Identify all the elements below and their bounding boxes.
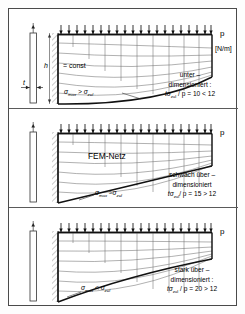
note-rest-under: / p = 10 < 12 bbox=[178, 90, 215, 97]
panel-under-dimensioned: p [N/m] h = const t σmax > σzul unter – … bbox=[9, 9, 238, 108]
plate-side-view-slightly bbox=[30, 122, 37, 202]
stress-label-strongly: σmax < σzul bbox=[81, 285, 110, 292]
load-label-strongly: p bbox=[220, 228, 224, 236]
distributed-load-arrows-strongly bbox=[58, 223, 213, 233]
note-line3-strongly: tσzul / p = 20 > 12 bbox=[149, 284, 235, 294]
note-line2-strongly: dimensioniert : bbox=[149, 275, 235, 285]
note-line1-strongly: stark über – bbox=[149, 265, 235, 275]
stress-sym-zul-slightly: σ bbox=[113, 189, 117, 196]
stress-rel-under: > bbox=[78, 88, 82, 95]
height-dimension-under bbox=[48, 33, 51, 104]
note-line2-under: dimensioniert : bbox=[149, 80, 231, 90]
fixed-support-hatch-strongly bbox=[52, 231, 58, 302]
load-label-under: p bbox=[220, 30, 224, 38]
stress-leader-under bbox=[122, 93, 141, 99]
note-slightly: schwach über – dimensioniert tσzul/ p = … bbox=[149, 170, 235, 199]
stress-sym-zul-under: σ bbox=[84, 88, 88, 95]
panel-strongly-over-dimensioned: p σmax < σzul stark über – dimensioniert… bbox=[9, 207, 238, 306]
note-line1-slightly: schwach über – bbox=[149, 170, 235, 180]
thickness-label-under: t bbox=[23, 79, 25, 86]
load-label-slightly: p bbox=[220, 129, 224, 137]
note-line2-slightly: dimensioniert bbox=[149, 180, 235, 190]
figure-root: p [N/m] h = const t σmax > σzul unter – … bbox=[0, 0, 245, 314]
note-line3-under: tσzul / p = 10 < 12 bbox=[149, 89, 231, 99]
distributed-load-arrows-slightly bbox=[58, 124, 213, 134]
stress-rel-strongly: < bbox=[95, 284, 99, 291]
note-sym-slightly: tσ bbox=[168, 190, 174, 197]
note-strongly: stark über – dimensioniert : tσzul / p =… bbox=[149, 265, 235, 294]
stress-label-under: σmax > σzul bbox=[64, 89, 93, 96]
stress-sub-zul-strongly: zul bbox=[105, 288, 110, 293]
mesh-label-slightly: FEM-Netz bbox=[88, 152, 126, 161]
note-sym-strongly: tσ bbox=[167, 285, 173, 292]
figure-frame: p [N/m] h = const t σmax > σzul unter – … bbox=[8, 8, 237, 306]
distributed-load-arrows-under bbox=[58, 25, 213, 35]
note-line1-under: unter – bbox=[149, 70, 231, 80]
stress-sub-max-under: max bbox=[68, 92, 76, 97]
note-line3-slightly: tσzul/ p = 15 > 12 bbox=[149, 189, 235, 199]
plate-side-view-under bbox=[21, 23, 43, 103]
stress-label-slightly: σmax ≈σzul bbox=[95, 190, 122, 197]
note-sub-under: zul bbox=[171, 94, 176, 99]
stress-sub-zul-under: zul bbox=[88, 92, 93, 97]
plate-side-view-strongly bbox=[30, 221, 37, 301]
fixed-support-hatch-slightly bbox=[52, 132, 58, 203]
height-label-under: h bbox=[44, 62, 48, 69]
stress-sym-zul-strongly: σ bbox=[101, 284, 105, 291]
height-equation-under: = const bbox=[63, 62, 86, 69]
note-rest-slightly: / p = 15 > 12 bbox=[179, 190, 216, 197]
fixed-support-hatch-under bbox=[52, 33, 58, 104]
note-sub-slightly: zul bbox=[174, 194, 179, 199]
stress-sub-zul-slightly: zul bbox=[117, 193, 122, 198]
panel-slightly-over-dimensioned: p FEM-Netz σmax ≈σzul schwach über – dim… bbox=[9, 108, 238, 207]
note-rest-strongly: / p = 20 > 12 bbox=[180, 285, 217, 292]
note-sub-strongly: zul bbox=[173, 289, 178, 294]
note-sym-under: tσ bbox=[165, 90, 171, 97]
note-under: unter – dimensioniert : tσzul / p = 10 <… bbox=[149, 70, 231, 99]
unit-label-under: [N/m] bbox=[215, 45, 232, 52]
stress-sub-max-strongly: max bbox=[85, 288, 93, 293]
stress-sub-max-slightly: max bbox=[99, 193, 107, 198]
